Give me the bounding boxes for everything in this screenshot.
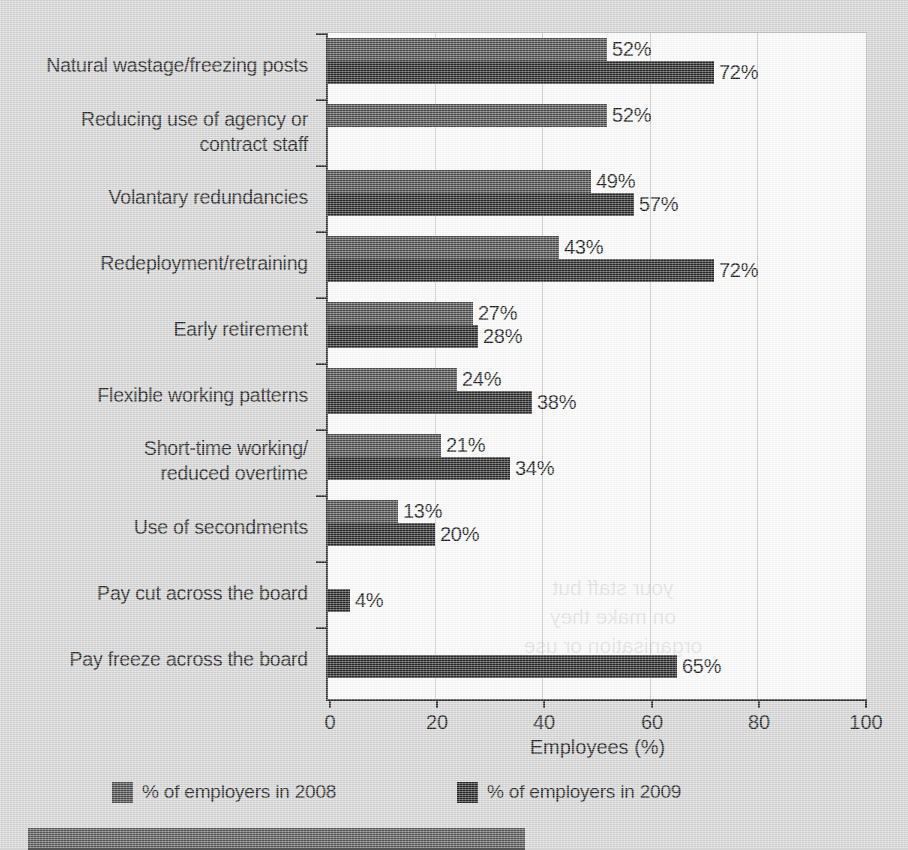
- legend-item-2009: % of employers in 2009: [457, 781, 681, 803]
- y-axis-tick: [316, 165, 327, 167]
- category-label-line1: Early retirement: [174, 318, 308, 340]
- bar-value-short-time-working-2008: 21%: [446, 434, 485, 457]
- bar-use-of-secondments-2009: [328, 523, 435, 546]
- gridline-80: [757, 33, 758, 699]
- x-axis-title: Employees (%): [328, 736, 867, 759]
- bar-value-natural-wastage-2009: 72%: [719, 61, 758, 84]
- legend-swatch-icon-2008: [112, 782, 133, 803]
- category-label-short-time-working: Short-time working/ reduced overtime: [8, 436, 308, 486]
- category-label-natural-wastage: Natural wastage/freezing posts: [8, 53, 308, 78]
- x-axis-tick-20: [436, 699, 438, 708]
- x-axis-tick-label-20: 20: [426, 710, 448, 734]
- bar-pay-freeze-2009: [328, 655, 677, 678]
- legend-label-2008: % of employers in 2008: [142, 781, 336, 803]
- legend-item-2008: % of employers in 2008: [112, 781, 336, 803]
- y-axis-line: [326, 33, 328, 701]
- legend-label-2009: % of employers in 2009: [487, 781, 681, 803]
- bar-value-use-of-secondments-2009: 20%: [440, 523, 479, 546]
- bar-value-pay-freeze-2009: 65%: [682, 655, 721, 678]
- bar-short-time-working-2008: [328, 434, 441, 457]
- x-axis-tick-label-100: 100: [849, 710, 882, 734]
- category-label-use-of-secondments: Use of secondments: [8, 515, 308, 540]
- category-label-flexible-working: Flexible working patterns: [8, 383, 308, 408]
- bar-value-early-retirement-2008: 27%: [478, 302, 517, 325]
- gridline-60: [650, 33, 651, 699]
- x-axis-line: [328, 699, 867, 701]
- category-label-early-retirement: Early retirement: [8, 317, 308, 342]
- ghost-line-1: your staff but: [552, 576, 673, 599]
- category-label-voluntary-redundancies: Volantary redundancies: [8, 185, 308, 210]
- y-axis-tick: [316, 231, 327, 233]
- bar-redeployment-2009: [328, 259, 714, 282]
- bar-early-retirement-2009: [328, 325, 478, 348]
- category-label-pay-cut: Pay cut across the board: [8, 581, 308, 606]
- x-axis-tick-60: [651, 699, 653, 708]
- bar-early-retirement-2008: [328, 302, 473, 325]
- category-label-line1: Use of secondments: [134, 516, 308, 538]
- bar-value-natural-wastage-2008: 52%: [612, 38, 651, 61]
- legend-swatch-icon-2009: [457, 782, 478, 803]
- x-axis-tick-0: [329, 699, 331, 708]
- bar-value-voluntary-redundancies-2009: 57%: [639, 193, 678, 216]
- bar-use-of-secondments-2008: [328, 500, 398, 523]
- bar-value-voluntary-redundancies-2008: 49%: [596, 170, 635, 193]
- bar-voluntary-redundancies-2009: [328, 193, 634, 216]
- bar-value-flexible-working-2009: 38%: [537, 391, 576, 414]
- category-label-line1: Natural wastage/freezing posts: [46, 54, 308, 76]
- bar-short-time-working-2009: [328, 457, 510, 480]
- bar-value-pay-cut-2009: 4%: [355, 589, 383, 612]
- x-axis-tick-label-40: 40: [533, 710, 555, 734]
- y-axis-tick: [316, 627, 327, 629]
- y-axis-tick: [316, 297, 327, 299]
- bar-flexible-working-2008: [328, 368, 457, 391]
- x-axis-tick-100: [865, 699, 867, 708]
- x-axis-tick-label-60: 60: [641, 710, 663, 734]
- x-axis-tick-label-80: 80: [748, 710, 770, 734]
- category-label-line1: Short-time working/: [144, 437, 308, 459]
- bar-redeployment-2008: [328, 236, 559, 259]
- bar-value-redeployment-2008: 43%: [564, 236, 603, 259]
- y-axis-tick: [316, 33, 327, 35]
- bar-value-reducing-agency-2008: 52%: [612, 104, 651, 127]
- bar-value-use-of-secondments-2008: 13%: [403, 500, 442, 523]
- gridline-20: [435, 33, 436, 699]
- category-label-pay-freeze: Pay freeze across the board: [8, 647, 308, 672]
- category-label-line1: Volantary redundancies: [109, 186, 308, 208]
- bar-value-flexible-working-2008: 24%: [462, 368, 501, 391]
- category-label-line1: Reducing use of agency or: [81, 108, 308, 130]
- category-label-redeployment-retraining: Redeployment/retraining: [8, 251, 308, 276]
- category-label-line2: reduced overtime: [161, 462, 308, 484]
- category-label-line1: Flexible working patterns: [97, 384, 308, 406]
- bar-value-early-retirement-2009: 28%: [483, 325, 522, 348]
- plot-area: your staff but on make they organisation…: [328, 33, 866, 699]
- chart-legend: % of employers in 2008 % of employers in…: [0, 778, 908, 812]
- y-axis-tick: [316, 363, 327, 365]
- caption-bar: [28, 828, 525, 850]
- category-axis: Natural wastage/freezing posts Reducing …: [0, 33, 318, 699]
- bar-value-short-time-working-2009: 34%: [515, 457, 554, 480]
- bar-natural-wastage-2009: [328, 61, 714, 84]
- x-axis-tick-80: [758, 699, 760, 708]
- bar-natural-wastage-2008: [328, 38, 607, 61]
- x-axis-tick-label-0: 0: [324, 710, 335, 734]
- y-axis-tick: [316, 99, 327, 101]
- category-label-reducing-agency: Reducing use of agency or contract staff: [8, 107, 308, 157]
- category-label-line2: contract staff: [200, 133, 308, 155]
- category-label-line1: Pay freeze across the board: [70, 648, 308, 670]
- ghost-line-3: organisation or use: [524, 634, 703, 657]
- ghost-line-2: on make they: [550, 605, 676, 628]
- bar-pay-cut-2009: [328, 589, 350, 612]
- ghost-text-bleed: your staff but on make they organisation…: [448, 573, 778, 660]
- gridline-40: [542, 33, 543, 699]
- category-label-line1: Redeployment/retraining: [100, 252, 308, 274]
- bar-reducing-agency-2008: [328, 104, 607, 127]
- category-label-line1: Pay cut across the board: [97, 582, 308, 604]
- y-axis-tick: [316, 561, 327, 563]
- bar-voluntary-redundancies-2008: [328, 170, 591, 193]
- bar-value-redeployment-2009: 72%: [719, 259, 758, 282]
- y-axis-tick: [316, 429, 327, 431]
- x-axis-tick-40: [543, 699, 545, 708]
- y-axis-tick: [316, 495, 327, 497]
- bar-flexible-working-2009: [328, 391, 532, 414]
